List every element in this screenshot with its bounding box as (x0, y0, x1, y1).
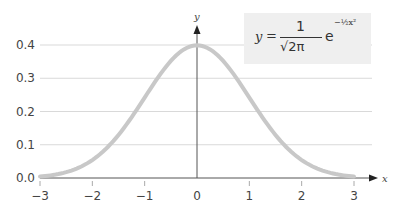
formula-numerator: 1 (296, 18, 305, 34)
y-tick-label: 0.2 (16, 105, 35, 119)
y-tick-label: 0.1 (16, 138, 35, 152)
x-tick-label: −3 (31, 189, 49, 203)
y-axis-arrow-icon (194, 25, 201, 34)
formula-lhs: y (255, 29, 262, 44)
x-tick-label: −2 (83, 189, 101, 203)
x-axis-label: x (382, 173, 388, 184)
x-tick-label: 3 (350, 189, 358, 203)
y-tick-label: 0.4 (16, 38, 35, 52)
formula-base: e (325, 28, 334, 44)
fraction-bar (280, 37, 322, 38)
x-axis-arrow-icon (369, 175, 378, 182)
x-tick-labels: −3−2−10123 (31, 181, 358, 203)
formula-equals: = (266, 28, 277, 43)
x-tick-label: 2 (298, 189, 306, 203)
formula-exponent: −½x² (334, 18, 356, 27)
x-tick-label: −1 (136, 189, 154, 203)
y-tick-label: 0.3 (16, 71, 35, 85)
y-tick-labels: 0.00.10.20.30.4 (16, 38, 35, 185)
y-tick-label: 0.0 (16, 171, 35, 185)
x-tick-label: 1 (246, 189, 254, 203)
y-axis-label: y (193, 11, 200, 22)
formula-denominator: √2π (280, 39, 304, 54)
x-tick-label: 0 (193, 189, 201, 203)
formula-box: y = 1 √2π e −½x² (244, 13, 371, 64)
